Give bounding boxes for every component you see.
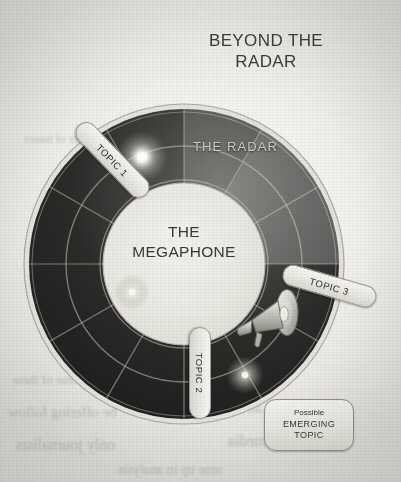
topic-pill-2-label: TOPIC 2 <box>195 353 206 394</box>
radar-diagram: THE RADAR THE MEGAPHONE <box>21 101 347 427</box>
figure-title-line-1: BEYOND THE <box>176 30 356 51</box>
radar-ring-label: THE RADAR <box>193 139 278 154</box>
bleed-through-line: only journalists <box>16 436 115 454</box>
emerging-legend-line-1: Possible <box>294 408 324 418</box>
megaphone-icon <box>226 287 310 361</box>
emerging-topic-legend[interactable]: Possible EMERGING TOPIC <box>264 399 354 451</box>
bleed-through-line: ome up in analysis <box>118 462 223 478</box>
figure-title: BEYOND THE RADAR <box>176 30 356 73</box>
figure-title-line-2: RADAR <box>176 51 356 72</box>
center-label-line-1: THE <box>107 222 261 242</box>
emerging-legend-line-2: EMERGING <box>283 419 335 431</box>
figure-page: the outcome of theseis one of the onlybe… <box>0 0 401 482</box>
center-label-line-2: MEGAPHONE <box>107 242 261 262</box>
emerging-legend-line-3: TOPIC <box>294 430 323 442</box>
radar-center-label: THE MEGAPHONE <box>107 222 261 262</box>
topic-pill-2[interactable]: TOPIC 2 <box>189 327 211 419</box>
radar-graphic <box>21 101 347 427</box>
